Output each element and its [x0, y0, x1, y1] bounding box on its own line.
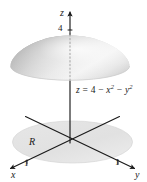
- z-axis-tick-label-4: 4: [58, 24, 63, 33]
- x-axis-tick-label-1: 1: [24, 159, 29, 168]
- z-axis-label: z: [60, 8, 64, 18]
- y-axis-label: y: [135, 170, 139, 180]
- paraboloid-figure: z 4 x 1 y 1 R z = 4 − x2 − y2: [0, 0, 147, 182]
- surface-equation: z = 4 − x2 − y2: [76, 86, 133, 96]
- x-axis-label: x: [11, 170, 15, 180]
- region-label-R: R: [29, 137, 35, 147]
- y-axis-tick-label-1: 1: [115, 158, 120, 167]
- equation-y-exponent: 2: [129, 83, 132, 90]
